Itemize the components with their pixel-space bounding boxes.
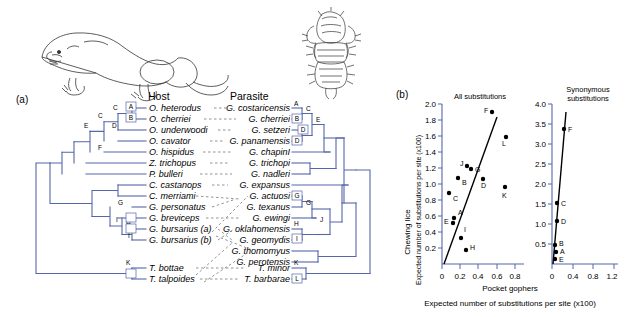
parasite-node-K: K — [294, 259, 299, 266]
parasite-taxon: T. barbarae — [244, 274, 290, 284]
point-D — [555, 219, 559, 223]
host-taxon: G. personatus — [149, 202, 206, 212]
host-node-K: K — [126, 259, 131, 266]
y-axis-caption: Expected number of substitutions per sit… — [415, 135, 423, 285]
panel-a-label: (a) — [16, 94, 28, 105]
left-plot-x-ticks — [442, 264, 515, 269]
chewing-lice-axis-label: Chewing lice — [403, 209, 412, 255]
point-label-L: L — [502, 140, 506, 147]
chart-synonymous-substitutions: Synonymous substitutions 4.0 3.5 3.0 2.5 — [535, 85, 618, 281]
ytick: 2.0 — [535, 180, 547, 189]
parasite-node-B: B — [295, 115, 299, 122]
parasite-node-G1: G — [294, 192, 299, 199]
host-taxon: G. breviceps — [149, 213, 200, 223]
ytick: 1.2 — [425, 164, 437, 173]
parasite-taxon: G. setzeri — [251, 125, 291, 135]
ytick: 1.4 — [425, 148, 437, 157]
panel-a-tanglegram: (a) Host Parasite — [0, 0, 400, 317]
parasite-node-I: I — [296, 235, 298, 242]
x-axis-caption: Expected number of substitutions per sit… — [424, 299, 596, 308]
point-H — [464, 248, 468, 252]
parasite-taxon: G. trichopi — [249, 158, 291, 168]
pocket-gopher-drawing — [42, 33, 228, 101]
host-taxon: C. castanops — [149, 180, 202, 190]
right-plot-y-ticklabels: 4.0 3.5 3.0 2.5 2.0 1.5 1.0 0.5 — [535, 100, 547, 249]
point-label-I: I — [464, 226, 466, 233]
chart-title-syn-line2: substitutions — [567, 94, 609, 103]
host-taxon: G. bursarius (b) — [149, 235, 212, 245]
ytick: 1.0 — [425, 180, 437, 189]
parasite-taxon: T. minor — [258, 263, 291, 273]
parasite-taxon: G. ewingi — [252, 213, 291, 223]
ytick: 1.0 — [535, 220, 547, 229]
host-taxon: O. heterodus — [149, 103, 202, 113]
ytick: 1.6 — [425, 132, 437, 141]
point-F — [562, 127, 566, 131]
parasite-taxon: G. geomydis — [239, 235, 290, 245]
host-node-D: D — [112, 122, 117, 129]
host-taxon: O. hispidus — [149, 147, 195, 157]
point-B — [456, 176, 460, 180]
host-taxon: O. cavator — [149, 136, 192, 146]
xtick: 0.6 — [491, 272, 503, 281]
point-label-E: E — [559, 256, 564, 263]
point-A — [452, 216, 456, 220]
host-column-header: Host — [148, 90, 170, 102]
point-D — [481, 177, 485, 181]
ytick: 1.5 — [535, 200, 547, 209]
point-C — [447, 191, 451, 195]
parasite-taxon: G. costaricensis — [226, 103, 291, 113]
host-taxon: O. underwoodi — [149, 125, 209, 135]
parasite-node-H: H — [294, 220, 299, 227]
xtick: 1.2 — [606, 272, 618, 281]
parasite-taxon: G. thomomyus — [231, 246, 290, 256]
point-label-A: A — [458, 209, 463, 216]
point-C — [555, 201, 559, 205]
left-plot-points: A B C D E F G H I J — [444, 107, 508, 252]
host-node-A: A — [129, 103, 134, 110]
ytick: 2.5 — [535, 160, 547, 169]
host-cladogram — [36, 108, 146, 279]
xtick: 0.2 — [454, 272, 466, 281]
ytick: 3.5 — [535, 120, 547, 129]
parasite-node-J: J — [320, 216, 323, 223]
point-B — [553, 243, 557, 247]
point-label-K: K — [502, 192, 507, 199]
point-label-C: C — [561, 200, 566, 207]
point-label-H: H — [470, 244, 475, 251]
point-label-B: B — [559, 240, 564, 247]
ytick: 4.0 — [535, 100, 547, 109]
host-taxon: P. bulleri — [149, 169, 184, 179]
panel-b-scatterplots: (b) Chewing lice Expected number of subs… — [392, 82, 626, 317]
host-taxon: T. talpoides — [149, 274, 195, 284]
parasite-node-A: A — [294, 100, 299, 107]
host-taxon: T. bottae — [149, 263, 184, 273]
ytick: 0.6 — [425, 212, 437, 221]
parasite-taxon: G. chapinI — [249, 147, 291, 157]
host-node-E: E — [84, 122, 89, 129]
ytick: 1.8 — [425, 116, 437, 125]
point-label-A: A — [560, 248, 565, 255]
ytick: 0.5 — [535, 240, 547, 249]
point-label-F: F — [568, 126, 572, 133]
host-taxon: Z. trichopus — [148, 158, 197, 168]
host-node-B: B — [129, 114, 133, 121]
parasite-node-labels: A B C D D E G G H I J K L — [292, 100, 323, 283]
xtick: 0.4 — [472, 272, 484, 281]
ytick: 3.0 — [535, 140, 547, 149]
parasite-taxon: G. actuosi — [249, 191, 291, 201]
panel-b-label: (b) — [396, 89, 408, 100]
point-label-E: E — [444, 218, 449, 225]
parasite-node-D2: D — [295, 137, 300, 144]
ytick: 2.0 — [425, 100, 437, 109]
chewing-louse-drawing — [302, 7, 361, 99]
point-label-G: G — [475, 166, 480, 173]
point-I — [459, 236, 463, 240]
parasite-taxon: G. texanus — [246, 202, 290, 212]
right-plot-y-ticks — [548, 104, 552, 244]
point-E — [553, 257, 557, 261]
xtick: 0.8 — [587, 272, 599, 281]
parasite-node-L: L — [295, 275, 299, 282]
left-plot-x-ticklabels: 0 0.2 0.4 0.6 0.8 — [440, 272, 521, 281]
point-E — [451, 221, 455, 225]
